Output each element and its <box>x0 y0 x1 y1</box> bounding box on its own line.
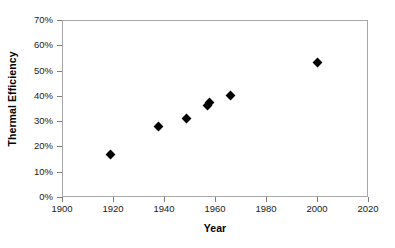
x-axis-tick <box>62 197 63 202</box>
y-axis-tick <box>57 45 62 46</box>
y-axis-title-text: Thermal Efficiency <box>6 51 18 146</box>
y-axis-title: Thermal Efficiency <box>2 0 22 197</box>
x-axis-tick-label: 1960 <box>192 204 238 214</box>
y-axis-tick <box>57 71 62 72</box>
x-axis-tick-label: 1920 <box>90 204 136 214</box>
plot-area <box>62 20 368 197</box>
x-axis-tick <box>266 197 267 202</box>
x-axis-tick <box>113 197 114 202</box>
thermal-efficiency-scatter-chart: 0%10%20%30%40%50%60%70% 1900192019401960… <box>0 0 395 248</box>
y-axis-tick <box>57 172 62 173</box>
x-axis-tick <box>368 197 369 202</box>
y-axis-tick <box>57 96 62 97</box>
y-axis-tick <box>57 121 62 122</box>
x-axis-title: Year <box>62 222 368 234</box>
x-axis-tick <box>215 197 216 202</box>
y-axis-tick <box>57 20 62 21</box>
x-axis-tick-label: 1940 <box>141 204 187 214</box>
x-axis-tick <box>164 197 165 202</box>
x-axis-tick-label: 1900 <box>39 204 85 214</box>
x-axis-tick-label: 2020 <box>345 204 391 214</box>
x-axis-tick-label: 1980 <box>243 204 289 214</box>
x-axis-tick-label: 2000 <box>294 204 340 214</box>
y-axis-tick <box>57 146 62 147</box>
x-axis-tick <box>317 197 318 202</box>
